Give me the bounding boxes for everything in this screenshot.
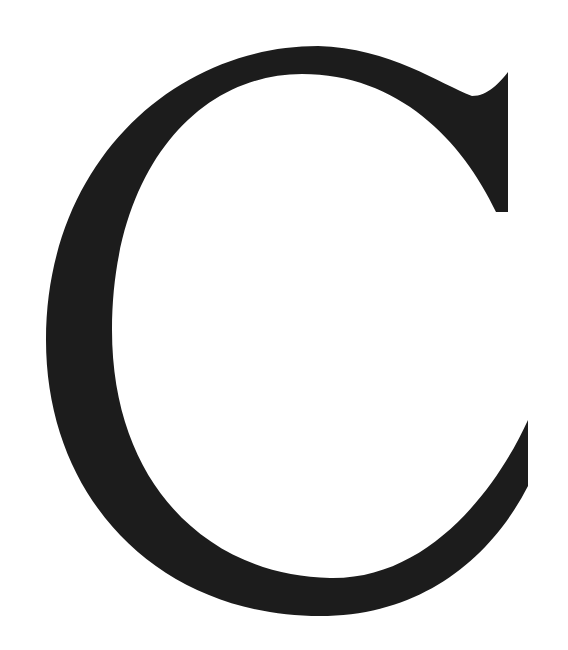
letter-c-shape bbox=[46, 46, 528, 616]
letter-canvas: C bbox=[0, 0, 568, 650]
serif-letter-c-icon bbox=[0, 0, 568, 650]
